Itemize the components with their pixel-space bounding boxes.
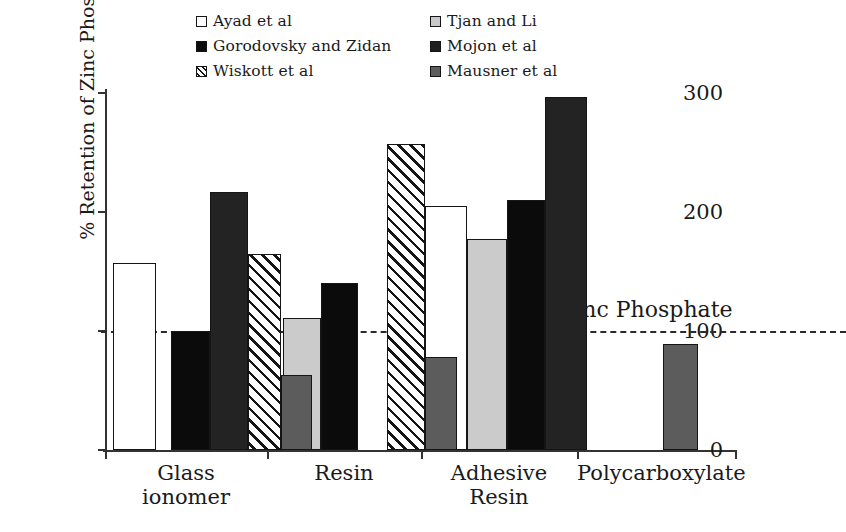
x-axis-category-label-line: Resin: [421, 486, 577, 510]
legend-item-label: Mojon et al: [447, 39, 537, 55]
legend-item-label: Wiskott et al: [213, 64, 314, 80]
x-axis-category-label: AdhesiveResin: [421, 462, 577, 509]
legend-swatch-white-icon: [196, 16, 207, 27]
bar: [545, 97, 587, 450]
x-axis-tick: [421, 450, 423, 459]
y-axis-title: % Retention of Zinc Phosphate: [76, 0, 98, 256]
x-axis-category-label-line: Glass: [105, 462, 267, 486]
bar: [171, 331, 210, 450]
bar: [663, 344, 698, 450]
legend-swatch-black-icon: [196, 41, 207, 52]
legend-item: Wiskott et al: [196, 64, 314, 80]
x-axis-category-label: Glassionomer: [105, 462, 267, 509]
y-axis-tick-label: 200: [683, 202, 723, 223]
x-axis-line: [103, 450, 737, 452]
legend-item: Ayad et al: [196, 14, 292, 30]
x-axis-tick: [105, 450, 107, 459]
x-axis-category-label-line: Resin: [267, 462, 421, 486]
legend-item: Mojon et al: [430, 39, 537, 55]
y-axis-tick-label: 0: [710, 440, 723, 461]
legend-swatch-mdgray-icon: [430, 66, 441, 77]
x-axis-tick: [735, 450, 737, 459]
legend-item: Gorodovsky and Zidan: [196, 39, 391, 55]
y-axis-tick: [98, 211, 106, 213]
x-axis-category-label-line: ionomer: [105, 486, 267, 510]
legend-item-label: Tjan and Li: [447, 14, 537, 30]
x-axis-category-label-line: Adhesive: [421, 462, 577, 486]
legend-item-label: Gorodovsky and Zidan: [213, 39, 391, 55]
legend-swatch-ltgray-icon: [430, 16, 441, 27]
bar: [281, 375, 312, 450]
chart-legend: Ayad et alGorodovsky and ZidanWiskott et…: [196, 14, 616, 88]
legend-item: Mausner et al: [430, 64, 557, 80]
x-axis-category-label: Resin: [267, 462, 421, 486]
bar: [425, 357, 457, 450]
legend-swatch-dark-icon: [430, 41, 441, 52]
x-axis-tick: [267, 450, 269, 459]
plot-area: 0100200300Zinc Phosphate: [105, 93, 735, 450]
bar: [387, 144, 425, 450]
bar: [467, 239, 507, 450]
legend-item-label: Ayad et al: [213, 14, 292, 30]
y-axis-tick-label: 300: [683, 83, 723, 104]
bar: [210, 192, 248, 450]
x-axis-tick: [577, 450, 579, 459]
bar: [507, 200, 545, 450]
x-axis-category-label: Polycarboxylate: [577, 462, 735, 486]
bar: [113, 263, 156, 450]
x-axis-category-label-line: Polycarboxylate: [577, 462, 735, 486]
legend-item: Tjan and Li: [430, 14, 537, 30]
bar: [321, 283, 358, 450]
y-axis-tick: [98, 92, 106, 94]
bar: [248, 254, 281, 450]
legend-swatch-hatch-icon: [196, 66, 207, 77]
legend-item-label: Mausner et al: [447, 64, 557, 80]
